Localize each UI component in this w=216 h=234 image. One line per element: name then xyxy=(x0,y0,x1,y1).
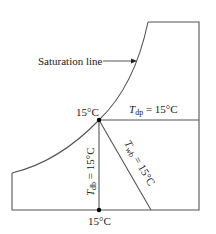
outline-box xyxy=(12,22,199,210)
chart-outline xyxy=(12,22,199,210)
state-point-bottom xyxy=(97,208,101,212)
point-label-top: 15°C xyxy=(76,106,99,118)
saturation-line-label: Saturation line xyxy=(38,55,103,67)
point-label-bottom: 15°C xyxy=(88,215,111,227)
dry-bulb-label: Tdb = 15°C xyxy=(84,147,98,196)
state-point-top xyxy=(97,118,101,122)
dew-point-label: Tdp = 15°C xyxy=(129,103,178,117)
wet-bulb-label: Twb = 15°C xyxy=(121,138,158,189)
psychrometric-diagram: Saturation line 15°C 15°C Tdp = 15°C Tdb… xyxy=(0,0,216,234)
